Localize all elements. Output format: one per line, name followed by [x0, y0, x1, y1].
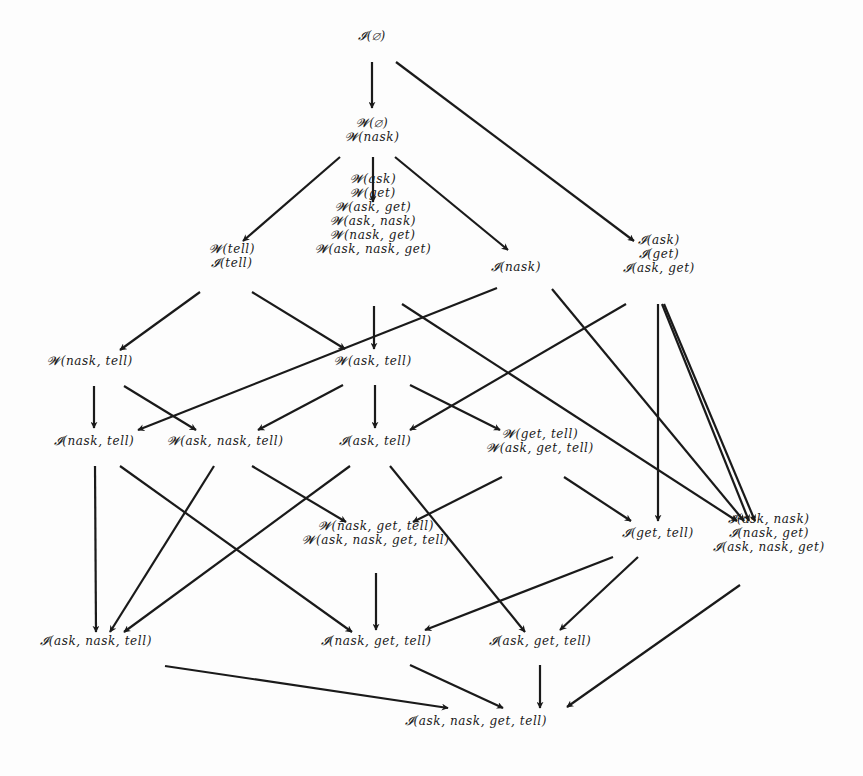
edge-arrow-n11-n12	[413, 477, 502, 522]
node-label: 𝓘(ask, nask, get, tell)	[405, 714, 547, 728]
edge-arrow-n0-n5	[396, 62, 634, 241]
node-label: 𝓘(get)	[623, 247, 695, 261]
edge-arrow-n9-n15	[110, 466, 214, 632]
node-label: 𝓦(ask, nask, get)	[315, 242, 431, 256]
edge-arrow-n14-n18	[567, 585, 740, 707]
edge-arrow-n16-n18	[410, 665, 503, 708]
edge-arrow-n9-n12	[252, 466, 346, 522]
edge-arrow-n5-n14b	[662, 304, 749, 521]
node-label: 𝓘(get, tell)	[622, 526, 693, 540]
node-label: 𝓘(ask, nask, get)	[713, 540, 824, 554]
lattice-node-n1: 𝓦(∅)𝓦(nask)	[345, 116, 400, 144]
lattice-node-n15: 𝓘(ask, nask, tell)	[40, 634, 152, 648]
lattice-node-n16: 𝓘(nask, get, tell)	[321, 634, 432, 648]
lattice-node-n3: 𝓦(ask)𝓦(get)𝓦(ask, get)𝓦(ask, nask)𝓦(nas…	[315, 172, 431, 256]
edge-arrow-n13-n17	[560, 557, 638, 630]
node-label: 𝓘(nask)	[491, 260, 541, 274]
node-label: 𝓦(ask, tell)	[334, 354, 411, 368]
node-label: 𝓘(ask, nask, tell)	[40, 634, 152, 648]
node-label: 𝓦(ask, nask, get, tell)	[302, 533, 449, 547]
lattice-node-n18: 𝓘(ask, nask, get, tell)	[405, 714, 547, 728]
node-label: 𝓘(ask)	[623, 233, 695, 247]
edge-group	[94, 62, 755, 708]
lattice-node-n2: 𝓦(tell)𝓘(tell)	[209, 242, 255, 270]
node-label: 𝓘(ask, get)	[623, 261, 695, 275]
node-label: 𝓘(ask, get, tell)	[489, 634, 592, 648]
lattice-node-n8: 𝓘(nask, tell)	[54, 434, 135, 448]
node-label: 𝓦(ask, get)	[315, 200, 431, 214]
node-label: 𝓦(get)	[315, 186, 431, 200]
edge-arrow-n4-n8	[138, 288, 497, 430]
lattice-node-n9: 𝓦(ask, nask, tell)	[167, 434, 284, 448]
lattice-node-n6: 𝓦(nask, tell)	[47, 354, 133, 368]
lattice-node-n14: 𝓘(ask, nask)𝓘(nask, get)𝓘(ask, nask, get…	[713, 512, 824, 554]
node-label: 𝓦(nask)	[345, 130, 400, 144]
node-label: 𝓦(ask, nask)	[315, 214, 431, 228]
edge-arrow-n5-n10	[410, 304, 626, 430]
node-label: 𝓘(nask, get)	[713, 526, 824, 540]
edge-arrow-n15-n18	[165, 666, 448, 708]
lattice-node-n10: 𝓘(ask, tell)	[339, 434, 411, 448]
lattice-diagram: 𝓘(∅)𝓦(∅)𝓦(nask)𝓦(tell)𝓘(tell)𝓦(ask)𝓦(get…	[0, 0, 863, 776]
node-label: 𝓦(ask, nask, tell)	[167, 434, 284, 448]
edge-arrow-n2-n6	[120, 292, 200, 350]
node-label: 𝓘(nask, get, tell)	[321, 634, 432, 648]
edge-arrow-n11-n13	[564, 477, 631, 521]
node-label: 𝓘(ask, tell)	[339, 434, 411, 448]
lattice-node-n17: 𝓘(ask, get, tell)	[489, 634, 592, 648]
node-label: 𝓦(nask, tell)	[47, 354, 133, 368]
edge-arrow-n10-n17	[390, 466, 525, 632]
node-label: 𝓦(ask, get, tell)	[486, 441, 594, 455]
lattice-node-n11: 𝓦(get, tell)𝓦(ask, get, tell)	[486, 427, 594, 455]
edge-arrow-n6-n9	[124, 386, 196, 430]
lattice-node-n13: 𝓘(get, tell)	[622, 526, 693, 540]
node-label: 𝓦(nask, get)	[315, 228, 431, 242]
edge-arrow-n8-n15	[95, 466, 96, 632]
lattice-node-n7: 𝓦(ask, tell)	[334, 354, 411, 368]
lattice-node-n5: 𝓘(ask)𝓘(get)𝓘(ask, get)	[623, 233, 695, 275]
node-label: 𝓘(∅)	[358, 29, 386, 43]
lattice-node-n12: 𝓦(nask, get, tell)𝓦(ask, nask, get, tell…	[302, 519, 449, 547]
lattice-node-n0: 𝓘(∅)	[358, 29, 386, 43]
edge-arrow-n7-n9	[258, 385, 343, 430]
node-label: 𝓦(∅)	[345, 116, 400, 130]
edges-layer	[0, 0, 863, 776]
node-label: 𝓦(get, tell)	[486, 427, 594, 441]
node-label: 𝓦(ask)	[315, 172, 431, 186]
node-label: 𝓘(ask, nask)	[713, 512, 824, 526]
lattice-node-n4: 𝓘(nask)	[491, 260, 541, 274]
node-label: 𝓘(nask, tell)	[54, 434, 135, 448]
edge-arrow-n2-n7	[252, 292, 345, 349]
node-label: 𝓦(nask, get, tell)	[302, 519, 449, 533]
node-label: 𝓘(tell)	[209, 256, 255, 270]
node-label: 𝓦(tell)	[209, 242, 255, 256]
edge-arrow-n4-n14	[552, 289, 744, 521]
edge-arrow-n13-n16	[425, 557, 613, 630]
edge-arrow-n5-n14	[664, 304, 755, 521]
